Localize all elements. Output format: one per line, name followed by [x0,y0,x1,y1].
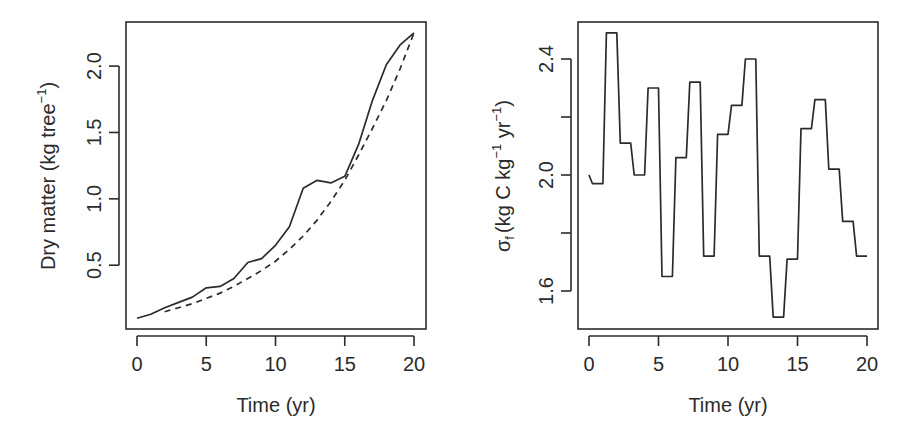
x-axis-title: Time (yr) [688,394,767,416]
x-tick-label: 0 [583,353,594,375]
y-tick-label: 0.5 [83,251,105,279]
y-axis-title: σf(kg C kg−1 yr−1) [489,100,517,252]
y-tick-label: 2.0 [535,161,557,189]
y-axis-title: Dry matter (kg tree−1) [34,82,59,270]
series-observed-line [137,33,414,318]
y-axis: 1.62.02.4 [535,45,571,305]
left-panel-dry-matter: 05101520 0.51.01.52.0 Time (yr) Dry matt… [34,22,426,416]
y-tick-label: 2.0 [83,52,105,80]
x-axis: 05101520 [131,336,425,375]
x-tick-label: 5 [201,353,212,375]
x-tick-label: 10 [264,353,286,375]
y-tick-label: 1.6 [535,277,557,305]
y-axis: 0.51.01.52.0 [83,52,119,279]
x-tick-label: 15 [786,353,808,375]
series-sigma-f-step-line [589,33,867,317]
y-tick-label: 1.0 [83,185,105,213]
plot-frame [578,22,878,329]
x-axis-title: Time (yr) [236,394,315,416]
x-tick-label: 10 [717,353,739,375]
figure: 05101520 0.51.01.52.0 Time (yr) Dry matt… [0,0,906,439]
y-tick-label: 1.5 [83,119,105,147]
x-axis: 05101520 [583,336,878,375]
x-tick-label: 15 [334,353,356,375]
x-tick-label: 20 [403,353,425,375]
right-panel-sigma-f: 05101520 1.62.02.4 Time (yr) σf(kg C kg−… [489,22,878,416]
x-tick-label: 20 [856,353,878,375]
y-tick-label: 2.4 [535,45,557,73]
x-tick-label: 5 [653,353,664,375]
plot-frame [126,22,426,329]
series-fitted-dashed-line [165,33,414,312]
x-tick-label: 0 [131,353,142,375]
